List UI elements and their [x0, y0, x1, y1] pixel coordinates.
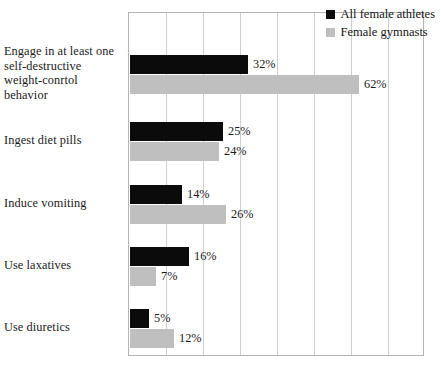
category-label-line: weight-conrtol: [4, 73, 120, 88]
category-label-line: behavior: [4, 88, 120, 103]
legend-swatch-icon: [326, 28, 335, 37]
bar: [130, 309, 149, 328]
legend-item[interactable]: Female gymnasts: [326, 24, 435, 41]
category-label-line: Use diuretics: [4, 320, 120, 335]
bar-value-label: 24%: [224, 142, 247, 161]
bar-value-label: 62%: [364, 75, 387, 94]
category-label-line: Induce vomiting: [4, 196, 120, 211]
category-label-line: Ingest diet pills: [4, 133, 120, 148]
legend-label: Female gymnasts: [341, 24, 428, 41]
bar: [130, 247, 189, 266]
legend-item[interactable]: All female athletes: [326, 6, 435, 23]
plot-area: 32%62%25%24%14%26%16%7%5%12%: [128, 12, 424, 356]
bar: [130, 267, 156, 286]
gridline: [388, 13, 389, 355]
bar-value-label: 16%: [194, 247, 217, 266]
bar-value-label: 14%: [187, 185, 210, 204]
bar-value-label: 5%: [154, 309, 170, 328]
category-label: Ingest diet pills: [4, 133, 120, 148]
bar: [130, 75, 359, 94]
bar: [130, 122, 223, 141]
bar-value-label: 32%: [253, 55, 276, 74]
bar-value-label: 26%: [231, 205, 254, 224]
category-label: Use laxatives: [4, 258, 120, 273]
chart-legend: All female athletesFemale gymnasts: [326, 6, 435, 42]
gridline: [277, 13, 278, 355]
legend-swatch-icon: [326, 10, 335, 19]
bar-value-label: 25%: [228, 122, 251, 141]
bar: [130, 142, 219, 161]
category-label: Engage in at least oneself-destructivewe…: [4, 44, 120, 102]
bar: [130, 185, 182, 204]
gridline: [351, 13, 352, 355]
legend-label: All female athletes: [341, 6, 435, 23]
bar: [130, 55, 248, 74]
bar-value-label: 7%: [161, 267, 177, 286]
category-label-line: Engage in at least one: [4, 44, 120, 59]
bar: [130, 329, 174, 348]
category-label: Use diuretics: [4, 320, 120, 335]
category-label-line: self-destructive: [4, 59, 120, 74]
bar: [130, 205, 226, 224]
category-axis-labels: Engage in at least oneself-destructivewe…: [0, 12, 124, 356]
category-label: Induce vomiting: [4, 196, 120, 211]
category-label-line: Use laxatives: [4, 258, 120, 273]
chart-page: Engage in at least oneself-destructivewe…: [0, 0, 441, 368]
bar-value-label: 12%: [179, 329, 202, 348]
gridline: [314, 13, 315, 355]
